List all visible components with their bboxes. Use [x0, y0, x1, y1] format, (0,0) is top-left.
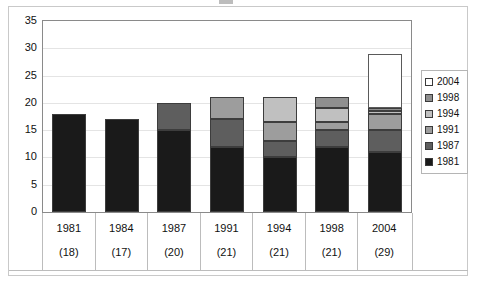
legend: 200419981994199119871981: [421, 70, 468, 174]
bar-column[interactable]: [368, 54, 402, 212]
legend-item-1994[interactable]: 1994: [425, 107, 469, 122]
x-axis-label: 2004: [358, 222, 410, 234]
legend-label: 1981: [437, 156, 459, 167]
legend-item-1998[interactable]: 1998: [425, 91, 469, 106]
legend-label: 2004: [437, 76, 459, 87]
bar-segment[interactable]: [368, 130, 402, 152]
x-axis-table-bottom-rule: [9, 270, 468, 271]
legend-item-1987[interactable]: 1987: [425, 139, 469, 154]
gridline-25: [43, 76, 411, 77]
x-axis-sublabel: (17): [96, 246, 148, 258]
legend-swatch-icon: [425, 94, 433, 102]
legend-label: 1994: [437, 108, 459, 119]
bar-segment[interactable]: [210, 147, 244, 212]
y-axis-tick-30: 30: [7, 42, 37, 53]
legend-swatch-icon: [425, 78, 433, 86]
x-axis-label: 1998: [306, 222, 358, 234]
x-axis-sublabel: (18): [43, 246, 95, 258]
x-axis-cell-1994: 1994(21): [252, 213, 305, 271]
bar-segment[interactable]: [263, 157, 297, 212]
legend-swatch-icon: [425, 142, 433, 150]
cropped-title-sliver: [219, 0, 233, 4]
bar-segment[interactable]: [315, 147, 349, 212]
x-axis-label-table: 1981(18)1984(17)1987(20)1991(21)1994(21)…: [42, 213, 412, 271]
bar-column[interactable]: [157, 103, 191, 212]
y-axis-tick-5: 5: [7, 179, 37, 190]
x-axis-label: 1984: [96, 222, 148, 234]
x-axis-cell-1984: 1984(17): [95, 213, 148, 271]
bar-column[interactable]: [210, 97, 244, 212]
x-axis-cell-2004: 2004(29): [357, 213, 410, 271]
bar-segment[interactable]: [157, 130, 191, 212]
bar-segment[interactable]: [368, 152, 402, 212]
y-axis-tick-35: 35: [7, 15, 37, 26]
bar-segment[interactable]: [315, 97, 349, 108]
gridline-30: [43, 48, 411, 49]
bar-segment[interactable]: [263, 97, 297, 122]
x-axis-label: 1994: [253, 222, 305, 234]
x-axis-cell-1981: 1981(18): [42, 213, 95, 271]
legend-label: 1987: [437, 140, 459, 151]
x-axis-cell-1987: 1987(20): [147, 213, 200, 271]
bar-column[interactable]: [315, 97, 349, 212]
legend-item-1981[interactable]: 1981: [425, 155, 469, 170]
bar-segment[interactable]: [210, 119, 244, 146]
legend-item-2004[interactable]: 2004: [425, 75, 469, 90]
y-axis-tick-20: 20: [7, 97, 37, 108]
y-axis-tick-labels: 05101520253035: [0, 0, 42, 213]
legend-label: 1998: [437, 92, 459, 103]
legend-swatch-icon: [425, 110, 433, 118]
x-axis-cell-1991: 1991(21): [200, 213, 253, 271]
x-axis-label: 1987: [148, 222, 200, 234]
bar-segment[interactable]: [368, 54, 402, 109]
bar-segment[interactable]: [157, 103, 191, 130]
x-axis-sublabel: (21): [201, 246, 253, 258]
bar-segment[interactable]: [315, 122, 349, 130]
bar-column[interactable]: [52, 114, 86, 212]
x-axis-cell-1998: 1998(21): [305, 213, 358, 271]
bar-segment[interactable]: [263, 141, 297, 157]
x-axis-sublabel: (21): [253, 246, 305, 258]
x-axis-sublabel: (21): [306, 246, 358, 258]
bar-segment[interactable]: [315, 108, 349, 122]
bar-segment[interactable]: [105, 119, 139, 212]
bar-segment[interactable]: [368, 111, 402, 114]
legend-item-1991[interactable]: 1991: [425, 123, 469, 138]
bar-segment[interactable]: [210, 97, 244, 119]
legend-swatch-icon: [425, 126, 433, 134]
y-axis-tick-25: 25: [7, 70, 37, 81]
bar-column[interactable]: [105, 119, 139, 212]
legend-swatch-icon: [425, 158, 433, 166]
bar-segment[interactable]: [368, 114, 402, 130]
bar-segment[interactable]: [368, 108, 402, 110]
x-axis-sublabel: (29): [358, 246, 410, 258]
plot-area: [42, 20, 412, 213]
bar-segment[interactable]: [315, 130, 349, 146]
y-axis-tick-15: 15: [7, 124, 37, 135]
x-axis-label: 1991: [201, 222, 253, 234]
legend-label: 1991: [437, 124, 459, 135]
x-axis-label: 1981: [43, 222, 95, 234]
y-axis-tick-10: 10: [7, 151, 37, 162]
chart-figure: 05101520253035 1981(18)1984(17)1987(20)1…: [0, 0, 477, 286]
x-axis-corner-cell: [9, 213, 42, 271]
x-axis-sublabel: (20): [148, 246, 200, 258]
bar-segment[interactable]: [52, 114, 86, 212]
bar-column[interactable]: [263, 97, 297, 212]
bar-segment[interactable]: [263, 122, 297, 141]
x-axis-trailing-cell: [412, 213, 468, 271]
